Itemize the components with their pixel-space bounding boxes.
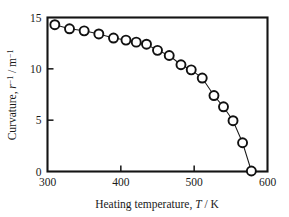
plot-frame <box>48 18 268 172</box>
data-series-markers <box>50 20 256 175</box>
data-point-marker <box>229 116 238 125</box>
data-series-line <box>55 25 252 171</box>
svg-text:Curvature, r−1 / m−1: Curvature, r−1 / m−1 <box>6 50 19 141</box>
y-tick-label: 10 <box>30 63 42 75</box>
x-tick-label: 500 <box>186 176 204 188</box>
data-point-marker <box>187 65 196 74</box>
x-axis-title: Heating temperature, T / K <box>95 198 219 211</box>
x-axis-tick-labels: 300400500600 <box>39 176 277 188</box>
data-point-marker <box>132 38 141 47</box>
chart-figure: 300400500600 051015 Heating temperature,… <box>0 0 289 217</box>
data-point-marker <box>153 46 162 55</box>
data-point-marker <box>80 26 89 35</box>
data-point-marker <box>50 20 59 29</box>
y-tick-label: 5 <box>36 114 42 126</box>
chart-canvas: 300400500600 051015 Heating temperature,… <box>0 0 289 217</box>
data-point-marker <box>176 60 185 69</box>
data-point-marker <box>219 102 228 111</box>
data-point-marker <box>238 138 247 147</box>
data-point-marker <box>109 34 118 43</box>
data-point-marker <box>165 51 174 60</box>
data-point-marker <box>65 24 74 33</box>
y-tick-label: 0 <box>36 166 42 178</box>
y-axis-title: Curvature, r−1 / m−1 <box>6 50 19 141</box>
data-point-marker <box>94 29 103 38</box>
svg-text:Heating temperature, T / K: Heating temperature, T / K <box>95 198 219 211</box>
x-tick-label: 400 <box>112 176 130 188</box>
x-tick-label: 300 <box>39 176 57 188</box>
data-point-marker <box>121 36 130 45</box>
data-point-marker <box>142 40 151 49</box>
data-point-marker <box>198 74 207 83</box>
y-axis-tick-labels: 051015 <box>30 12 42 178</box>
data-point-marker <box>247 166 256 175</box>
data-point-marker <box>209 91 218 100</box>
y-tick-label: 15 <box>30 12 42 24</box>
x-tick-label: 600 <box>259 176 277 188</box>
